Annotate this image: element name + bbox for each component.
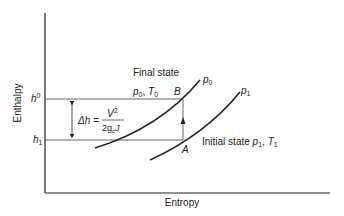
h1-label: h1 — [33, 134, 43, 146]
h0-label: h0 — [31, 92, 41, 104]
x-axis-label: Entropy — [165, 197, 199, 208]
a-to-b-arrowhead — [181, 117, 186, 124]
final-state-label: Final state — [133, 67, 180, 78]
initial-state-label: Initial state p1, T1 — [202, 136, 278, 148]
delta-h-denominator: 2gcJ — [102, 123, 120, 134]
enthalpy-entropy-diagram: Enthalpy Entropy h0 h1 Δh = V2 2gcJ p0 p… — [0, 0, 344, 216]
p0-curve-label: p0 — [202, 74, 213, 86]
p1-isobar-curve — [150, 92, 240, 160]
delta-h-lhs: Δh = — [77, 115, 99, 126]
point-b-label: B — [174, 86, 181, 97]
p1-curve-label: p1 — [240, 85, 251, 97]
final-state-conditions: p0, T0 — [132, 86, 158, 98]
point-a-label: A — [181, 144, 189, 155]
y-axis-label: Enthalpy — [12, 84, 23, 123]
delta-h-numerator: V2 — [107, 107, 118, 119]
